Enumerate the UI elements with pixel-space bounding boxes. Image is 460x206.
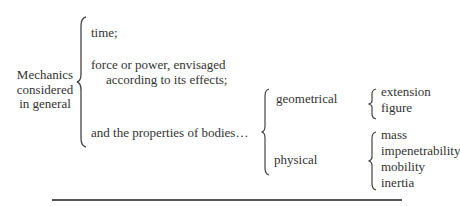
geometrical-item: figure [381, 100, 412, 115]
footnote-rule [52, 199, 402, 201]
branch-force-line1: force or power, envisaged [91, 57, 225, 72]
physical-item: impenetrability [381, 143, 460, 158]
root-label-line: considered [10, 83, 80, 98]
physical-label: physical [274, 152, 317, 167]
root-label-line: Mechanics [10, 68, 80, 83]
main-brace [76, 16, 88, 148]
physical-item: mobility [381, 159, 425, 174]
geometrical-label: geometrical [276, 91, 337, 106]
geometrical-item: extension [381, 84, 431, 99]
branch-properties: and the properties of bodies… [91, 125, 248, 140]
root-label-line: in general [10, 97, 80, 112]
geometrical-brace [368, 88, 378, 120]
physical-brace [368, 131, 378, 191]
root-label: Mechanics considered in general [10, 68, 80, 112]
branch-time: time; [91, 25, 118, 40]
properties-brace [261, 88, 271, 176]
branch-force-line2: according to its effects; [106, 72, 227, 87]
physical-item: inertia [381, 175, 414, 190]
physical-item: mass [381, 127, 407, 142]
